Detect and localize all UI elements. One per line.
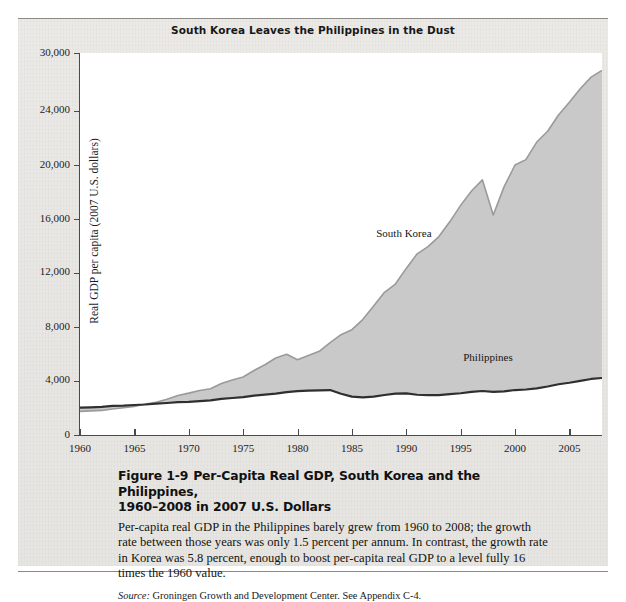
x-tick-mark (461, 429, 462, 435)
x-tick-label: 1965 (111, 442, 157, 454)
y-tick-label: 4,000 (12, 373, 70, 385)
figure-caption: Figure 1-9Per-Capita Real GDP, South Kor… (118, 468, 548, 602)
x-tick-mark (80, 429, 81, 435)
chart-canvas (80, 53, 602, 435)
y-tick-mark (74, 165, 80, 166)
x-tick-mark (569, 429, 570, 435)
x-tick-label: 1960 (57, 442, 103, 454)
y-tick-mark (74, 381, 80, 382)
x-tick-label: 1970 (166, 442, 212, 454)
x-tick-label: 2005 (546, 442, 592, 454)
x-tick-mark (298, 429, 299, 435)
series-annotation-label: Philippines (463, 351, 513, 363)
y-tick-mark (74, 273, 80, 274)
caption-heading: Figure 1-9Per-Capita Real GDP, South Kor… (118, 468, 548, 515)
x-tick-mark (243, 429, 244, 435)
series-annotation-label: South Korea (376, 227, 431, 239)
x-tick-label: 1990 (383, 442, 429, 454)
y-tick-label: 16,000 (12, 212, 70, 224)
top-rule (18, 18, 608, 19)
x-tick-label: 2000 (492, 442, 538, 454)
figure-number: Figure 1-9 (118, 468, 188, 483)
x-tick-mark (515, 429, 516, 435)
y-tick-label: 30,000 (12, 46, 70, 58)
y-tick-mark (74, 53, 80, 54)
source-label: Source: (118, 590, 150, 601)
x-tick-label: 1985 (329, 442, 375, 454)
plot-area: Real GDP per capita (2007 U.S. dollars) (80, 53, 602, 435)
caption-heading-line2: 1960–2008 in 2007 U.S. Dollars (118, 499, 331, 514)
x-tick-mark (134, 429, 135, 435)
y-tick-label: 24,000 (12, 103, 70, 115)
x-tick-label: 1995 (438, 442, 484, 454)
y-tick-label: 8,000 (12, 320, 70, 332)
x-tick-label: 1975 (220, 442, 266, 454)
source-text: Groningen Growth and Development Center.… (153, 590, 422, 601)
x-axis-line (79, 435, 602, 436)
chart-title: South Korea Leaves the Philippines in th… (18, 24, 608, 36)
y-tick-label: 20,000 (12, 158, 70, 170)
y-tick-mark (74, 219, 80, 220)
y-axis-title: Real GDP per capita (2007 U.S. dollars) (88, 36, 100, 426)
y-tick-mark (74, 111, 80, 112)
x-tick-label: 1980 (275, 442, 321, 454)
korea-philippines-gap-area (80, 70, 602, 411)
x-tick-mark (189, 429, 190, 435)
caption-source: Source: Groningen Growth and Development… (118, 589, 548, 602)
x-tick-mark (352, 429, 353, 435)
y-tick-label: 12,000 (12, 265, 70, 277)
caption-body: Per-capita real GDP in the Philippines b… (118, 520, 548, 582)
x-tick-mark (406, 429, 407, 435)
y-tick-label: 0 (12, 428, 70, 440)
y-tick-mark (74, 435, 80, 436)
y-tick-mark (74, 327, 80, 328)
